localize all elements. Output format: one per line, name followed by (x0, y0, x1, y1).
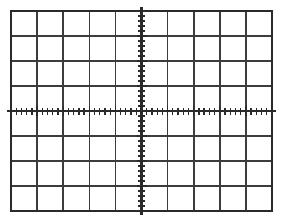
oscilloscope-graticule (0, 0, 283, 221)
graticule-canvas (0, 0, 283, 221)
